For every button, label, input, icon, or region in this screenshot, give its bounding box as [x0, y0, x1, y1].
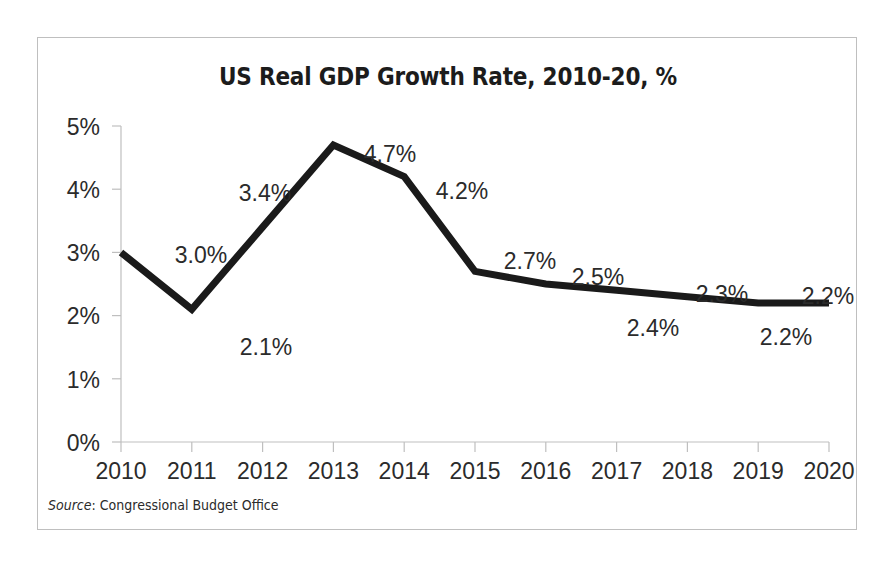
- source-text: Congressional Budget Office: [100, 497, 279, 513]
- source-note: Source: Congressional Budget Office: [48, 497, 279, 513]
- data-label-2011: 2.1%: [240, 334, 292, 361]
- data-label-2016: 2.5%: [572, 264, 624, 291]
- x-tick-label-2015: 2015: [449, 458, 500, 485]
- x-tick-label-2016: 2016: [520, 458, 571, 485]
- x-tick-label-2014: 2014: [379, 458, 430, 485]
- x-tick-label-2017: 2017: [591, 458, 642, 485]
- x-tick-label-2020: 2020: [803, 458, 854, 485]
- x-tick-label-2018: 2018: [662, 458, 713, 485]
- x-tick-label-2012: 2012: [237, 458, 288, 485]
- y-tick-label-5: 5%: [46, 114, 100, 141]
- x-tick-label-2013: 2013: [308, 458, 359, 485]
- y-tick-label-1: 1%: [46, 367, 100, 394]
- x-tick-label-2019: 2019: [733, 458, 784, 485]
- chart-frame: US Real GDP Growth Rate, 2010-20, %: [37, 37, 857, 530]
- x-tick-label-2011: 2011: [167, 458, 216, 485]
- x-axis-ticks: [121, 442, 829, 452]
- data-label-2014: 4.2%: [436, 178, 488, 205]
- data-label-2020: 2.2%: [802, 283, 854, 310]
- y-axis-ticks: [112, 126, 121, 442]
- data-label-2018: 2.3%: [696, 281, 748, 308]
- data-label-2010: 3.0%: [175, 242, 227, 269]
- data-label-2017: 2.4%: [627, 315, 679, 342]
- source-label: Source: [48, 497, 92, 513]
- y-tick-label-0: 0%: [46, 430, 100, 457]
- y-tick-label-2: 2%: [46, 303, 100, 330]
- y-tick-label-4: 4%: [46, 177, 100, 204]
- data-label-2015: 2.7%: [504, 248, 556, 275]
- data-label-2019: 2.2%: [760, 324, 812, 351]
- data-label-2012: 3.4%: [239, 180, 291, 207]
- chart-figure: US Real GDP Growth Rate, 2010-20, %: [0, 0, 896, 562]
- source-separator: :: [92, 497, 100, 513]
- data-label-2013: 4.7%: [364, 141, 416, 168]
- x-tick-label-2010: 2010: [95, 458, 146, 485]
- y-tick-label-3: 3%: [46, 240, 100, 267]
